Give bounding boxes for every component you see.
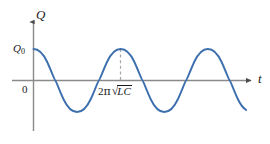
period-annotation-label: 2π√LC (98, 85, 132, 98)
x-axis-label: t (258, 72, 262, 85)
square-root-group: √LC (111, 85, 132, 98)
amplitude-tick-subscript: 0 (21, 47, 25, 56)
radicand-LC: LC (117, 85, 131, 98)
oscillation-figure: Q t Q0 0 2π√LC (0, 0, 270, 144)
pi-symbol: π (104, 85, 111, 98)
origin-label: 0 (22, 84, 28, 95)
amplitude-tick-symbol: Q (13, 42, 21, 54)
amplitude-tick-label: Q0 (13, 43, 25, 56)
y-axis-label: Q (36, 8, 45, 21)
